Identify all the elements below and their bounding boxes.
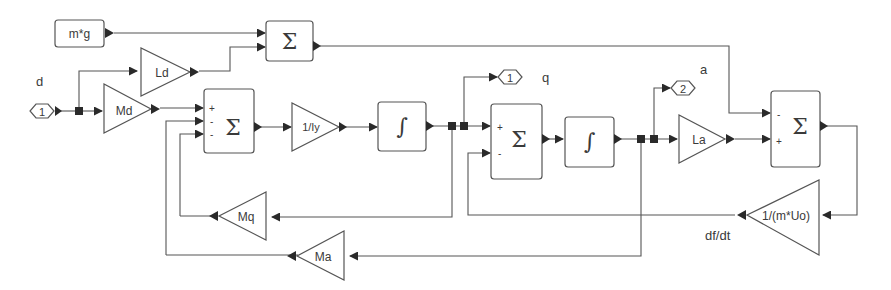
sum-top-block[interactable]: Σ: [266, 21, 321, 61]
sign-minus: -: [777, 109, 780, 120]
sign-minus: -: [498, 148, 501, 159]
gain-La-block[interactable]: La: [679, 115, 735, 163]
gain-label: Mq: [238, 210, 255, 224]
inport-1[interactable]: 1: [30, 104, 62, 118]
constant-mg-block[interactable]: m*g: [55, 20, 114, 47]
integrator-2-block[interactable]: ∫: [565, 117, 622, 167]
block-diagram-canvas: 1 d m*g Ld Md Σ + - - Σ 1/Iy: [0, 0, 891, 290]
sign-minus: -: [210, 116, 213, 127]
gain-Ma-block[interactable]: Ma: [287, 231, 344, 280]
sum-a-block[interactable]: + - Σ: [491, 104, 550, 179]
sum-q-block[interactable]: + - - Σ: [204, 89, 262, 153]
junction-q-2: [460, 122, 468, 130]
inport-number: 1: [39, 106, 45, 118]
sign-plus: +: [209, 103, 215, 114]
sigma-symbol: Σ: [282, 29, 298, 54]
constant-label: m*g: [69, 27, 90, 41]
gain-label: 1/(m*Uo): [762, 209, 810, 223]
gain-label: 1/Iy: [302, 121, 320, 133]
gain-inv-mUo-block[interactable]: 1/(m*Uo): [737, 180, 819, 255]
junction-a-1: [637, 135, 645, 143]
sum-f-block[interactable]: - + Σ: [771, 91, 828, 167]
inport-label-d: d: [36, 74, 43, 89]
outport-2[interactable]: 2: [671, 81, 695, 95]
sign-plus: +: [776, 136, 782, 147]
sign-plus: +: [497, 122, 503, 133]
outport-number: 2: [680, 83, 686, 95]
gain-label: Md: [116, 104, 133, 118]
gain-label: La: [692, 133, 706, 147]
integral-symbol: ∫: [584, 129, 596, 154]
gain-Ld-block[interactable]: Ld: [141, 48, 199, 96]
outport-label-a: a: [700, 62, 708, 77]
junction-q-1: [448, 122, 456, 130]
sigma-symbol: Σ: [225, 115, 241, 140]
gain-inv-Iy-block[interactable]: 1/Iy: [292, 103, 347, 151]
gain-label: Ma: [315, 250, 332, 264]
gain-Mq-block[interactable]: Mq: [209, 192, 266, 240]
sign-minus: -: [210, 129, 213, 140]
outport-1[interactable]: 1: [498, 70, 522, 84]
gain-label: Ld: [155, 66, 168, 80]
outport-label-q: q: [542, 70, 549, 85]
sigma-symbol: Σ: [792, 114, 808, 139]
integral-symbol: ∫: [396, 114, 408, 139]
signal-label-dfdt: df/dt: [705, 228, 731, 243]
integrator-1-block[interactable]: ∫: [378, 102, 434, 151]
junction-d: [75, 107, 83, 115]
outport-number: 1: [507, 72, 513, 84]
junction-a-2: [650, 135, 658, 143]
sigma-symbol: Σ: [511, 127, 527, 152]
